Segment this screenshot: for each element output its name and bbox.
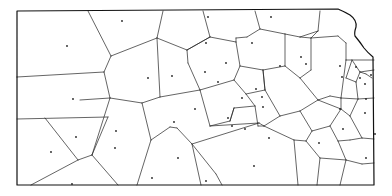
voronoi-edge — [362, 163, 374, 164]
voronoi-edge — [45, 118, 78, 160]
voronoi-edge — [104, 72, 110, 98]
voronoi-edge — [306, 131, 312, 141]
voronoi-edge — [92, 98, 110, 155]
site-point — [204, 71, 206, 73]
voronoi-edge — [338, 141, 346, 160]
site-point — [268, 137, 270, 139]
site-point — [364, 112, 366, 114]
voronoi-edge — [338, 140, 350, 141]
site-point — [339, 108, 341, 110]
site-point — [244, 128, 246, 130]
voronoi-edge — [360, 70, 374, 72]
voronoi-edge — [263, 66, 285, 70]
site-point — [339, 65, 341, 67]
site-point — [365, 157, 367, 159]
voronoi-edge — [300, 37, 311, 38]
voronoi-edge — [31, 160, 78, 185]
site-point — [374, 133, 376, 135]
site-point — [121, 20, 123, 22]
voronoi-edge — [260, 29, 285, 34]
site-point — [205, 42, 207, 44]
site-point — [231, 125, 233, 127]
voronoi-edge — [360, 72, 366, 74]
voronoi-diagram — [0, 0, 392, 196]
voronoi-edge — [142, 97, 160, 103]
voronoi-edge — [346, 60, 352, 78]
site-point — [227, 117, 229, 119]
voronoi-edge — [142, 103, 151, 140]
voronoi-edge — [350, 116, 362, 138]
site-point — [173, 121, 175, 123]
voronoi-edge — [160, 90, 200, 97]
voronoi-edge — [111, 38, 157, 56]
site-point — [253, 165, 255, 167]
voronoi-edge — [312, 126, 330, 131]
voronoi-edge — [210, 37, 236, 42]
voronoi-edge — [236, 37, 247, 38]
site-point — [341, 76, 343, 78]
voronoi-edge — [300, 111, 312, 131]
voronoi-edge — [318, 11, 320, 31]
site-point — [355, 66, 357, 68]
voronoi-edge — [350, 138, 362, 140]
site-point — [279, 65, 281, 67]
voronoi-edge — [340, 160, 346, 185]
voronoi-edge — [192, 123, 259, 144]
voronoi-edge — [259, 123, 264, 126]
voronoi-edge — [88, 11, 111, 56]
voronoi-edge — [338, 36, 346, 43]
voronoi-edge — [352, 60, 360, 72]
voronoi-edge — [255, 11, 260, 29]
site-point — [305, 63, 307, 65]
site-point — [177, 157, 179, 159]
voronoi-edge — [200, 80, 234, 90]
voronoi-edge — [234, 66, 240, 80]
site-point — [114, 147, 116, 149]
voronoi-edge — [92, 155, 118, 185]
site-point — [342, 128, 344, 130]
voronoi-edge — [157, 38, 160, 97]
site-point — [261, 96, 263, 98]
site-point — [171, 75, 173, 77]
site-point — [251, 42, 253, 44]
site-point — [365, 98, 367, 100]
site-point — [151, 177, 153, 179]
voronoi-edge — [341, 60, 346, 98]
site-point — [207, 16, 209, 18]
site-point — [359, 77, 361, 79]
voronoi-edge — [110, 98, 142, 103]
voronoi-edge — [356, 82, 358, 99]
voronoi-edge — [151, 127, 170, 140]
voronoi-edge — [330, 126, 338, 141]
voronoi-edge — [330, 109, 341, 126]
voronoi-edge — [104, 56, 111, 72]
site-point — [71, 183, 73, 185]
site-point — [241, 97, 243, 99]
voronoi-edge — [265, 90, 280, 116]
site-point — [270, 16, 272, 18]
site-point — [364, 83, 366, 85]
voronoi-edge — [137, 140, 151, 185]
voronoi-edge — [246, 90, 265, 94]
voronoi-edge — [234, 106, 255, 108]
voronoi-edge — [247, 29, 260, 37]
voronoi-edge — [350, 99, 358, 116]
voronoi-edge — [341, 98, 358, 99]
voronoi-edge — [203, 11, 210, 37]
voronoi-edge — [170, 127, 177, 128]
voronoi-sites — [50, 16, 376, 185]
site-point — [318, 142, 320, 144]
voronoi-edge — [318, 100, 341, 109]
site-point — [255, 88, 257, 90]
voronoi-edge — [300, 100, 318, 111]
site-point — [66, 45, 68, 47]
site-point — [115, 130, 117, 132]
voronoi-edge — [230, 108, 234, 121]
voronoi-edge — [263, 70, 265, 90]
voronoi-edge — [300, 78, 318, 100]
voronoi-edge — [330, 96, 341, 98]
voronoi-edge — [280, 111, 300, 116]
voronoi-edge — [356, 72, 360, 82]
voronoi-edge — [177, 128, 192, 144]
voronoi-edge — [92, 117, 108, 155]
